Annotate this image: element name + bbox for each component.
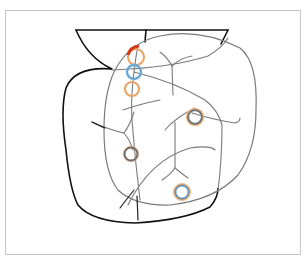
diagram-figure <box>0 0 306 264</box>
diagram-canvas <box>0 0 306 264</box>
marker-ring-blue-orange <box>175 185 190 200</box>
marker-ring-gray <box>124 147 138 161</box>
gray-network-lines <box>92 38 240 205</box>
black-network-lines <box>92 122 138 220</box>
marker-ring-gray-orange <box>188 110 203 125</box>
